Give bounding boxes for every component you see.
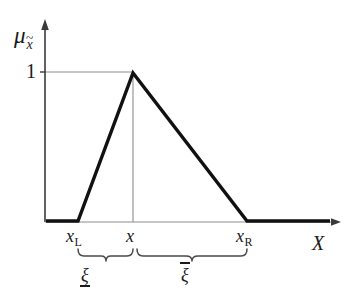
overbar-accent-icon [180, 262, 190, 264]
y-axis-label-subscript: ~x [27, 38, 33, 52]
x-label-right-base-subscript: R [245, 235, 253, 249]
underbar-accent-icon [80, 285, 90, 287]
figure-triangular-fuzzy-number: μ~x 1 xL x xR X ξ ξ [0, 0, 353, 308]
right-spread-label: ξ [180, 266, 190, 284]
brace-right-spread [137, 249, 247, 261]
brace-left-spread [78, 249, 133, 261]
membership-function-curve [46, 73, 330, 221]
x-label-peak: x [126, 227, 134, 245]
x-axis-label: X [312, 233, 324, 253]
y-tick-label-one: 1 [26, 61, 36, 81]
x-label-left-base: xL [66, 227, 82, 248]
y-axis-label: μ~x [14, 24, 33, 52]
tilde-accent-icon: ~ [26, 31, 33, 44]
x-label-right-base-char: x [236, 226, 244, 246]
left-spread-symbol: ξ [81, 265, 89, 285]
right-spread-symbol-group: ξ [180, 266, 190, 284]
x-label-left-base-subscript: L [75, 235, 82, 249]
right-spread-symbol: ξ [181, 265, 189, 285]
y-axis-label-mu: μ [14, 23, 26, 48]
x-axis-arrowhead [331, 218, 341, 226]
y-axis-arrowhead [41, 19, 49, 30]
x-label-left-base-char: x [66, 226, 74, 246]
left-spread-label: ξ [80, 266, 90, 284]
left-spread-symbol-group: ξ [80, 266, 90, 284]
x-label-right-base: xR [236, 227, 253, 248]
figure-canvas [0, 0, 353, 308]
